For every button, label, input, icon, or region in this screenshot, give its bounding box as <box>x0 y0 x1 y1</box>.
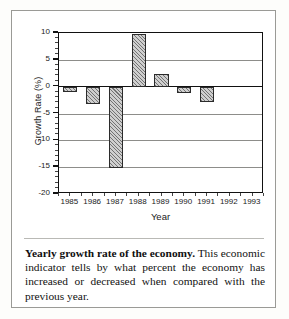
x-tick-minor <box>172 193 173 196</box>
y-tick-minor <box>55 155 58 156</box>
x-tick-minor <box>149 193 150 196</box>
y-tick-minor <box>55 74 58 75</box>
y-tick-minor <box>55 107 58 108</box>
y-tick-major <box>53 139 58 140</box>
x-tick-minor <box>217 193 218 196</box>
caption-lead: Yearly growth rate of the economy. <box>25 247 195 259</box>
y-tick-minor <box>55 64 58 65</box>
y-tick-minor <box>55 117 58 118</box>
plot-area <box>58 32 263 193</box>
y-tick-minor <box>55 171 58 172</box>
y-tick-minor <box>55 128 58 129</box>
x-tick-minor <box>92 193 93 196</box>
y-tick-minor <box>55 182 58 183</box>
x-tick-minor <box>240 193 241 196</box>
x-tick-minor <box>115 193 116 196</box>
figure-panel: Growth Rate (%) Year 1050-5-10-15-201985… <box>0 0 289 319</box>
y-tick-label: 10 <box>24 28 50 36</box>
bar-1987 <box>109 87 123 169</box>
y-tick-minor <box>55 144 58 145</box>
y-tick-major <box>53 112 58 113</box>
x-tick-minor <box>58 193 59 196</box>
gridline <box>59 60 262 61</box>
y-tick-major <box>53 58 58 59</box>
x-tick-minor <box>126 193 127 196</box>
y-tick-minor <box>55 176 58 177</box>
y-tick-minor <box>55 80 58 81</box>
figure-caption: Yearly growth rate of the economy. This … <box>25 246 265 303</box>
y-tick-major <box>53 165 58 166</box>
x-tick-minor <box>138 193 139 196</box>
y-tick-label: 5 <box>24 55 50 63</box>
y-tick-minor <box>55 53 58 54</box>
y-tick-major <box>53 85 58 86</box>
x-tick-minor <box>161 193 162 196</box>
y-tick-minor <box>55 150 58 151</box>
x-tick-minor <box>104 193 105 196</box>
x-axis-label: Year <box>58 211 263 222</box>
x-tick-minor <box>81 193 82 196</box>
x-tick-minor <box>229 193 230 196</box>
x-tick-minor <box>263 193 264 196</box>
caption-divider <box>24 238 264 239</box>
y-tick-minor <box>55 123 58 124</box>
x-tick-label: 1993 <box>239 197 265 206</box>
plot-wrapper <box>58 32 263 193</box>
x-tick-minor <box>195 193 196 196</box>
y-tick-minor <box>55 69 58 70</box>
bar-1985 <box>63 87 77 92</box>
y-tick-minor <box>55 91 58 92</box>
x-tick-minor <box>69 193 70 196</box>
y-tick-minor <box>55 37 58 38</box>
y-tick-label: -5 <box>24 109 50 117</box>
y-tick-minor <box>55 96 58 97</box>
y-tick-minor <box>55 133 58 134</box>
y-tick-minor <box>55 187 58 188</box>
y-tick-major <box>53 31 58 32</box>
y-tick-minor <box>55 101 58 102</box>
gridline <box>59 167 262 168</box>
y-tick-label: 0 <box>24 82 50 90</box>
y-tick-label: -10 <box>24 135 50 143</box>
bar-1989 <box>154 74 168 87</box>
bar-1990 <box>177 87 191 93</box>
y-tick-minor <box>55 160 58 161</box>
bar-1986 <box>86 87 100 105</box>
y-tick-label: -20 <box>24 189 50 197</box>
x-tick-minor <box>206 193 207 196</box>
x-tick-minor <box>183 193 184 196</box>
y-tick-minor <box>55 48 58 49</box>
y-tick-major <box>53 192 58 193</box>
y-tick-label: -15 <box>24 162 50 170</box>
y-tick-minor <box>55 42 58 43</box>
chart-container: Growth Rate (%) Year 1050-5-10-15-201985… <box>11 10 276 235</box>
x-tick-minor <box>252 193 253 196</box>
bar-1991 <box>200 87 214 102</box>
gridline <box>59 140 262 141</box>
gridline <box>59 114 262 115</box>
bar-1988 <box>132 34 146 87</box>
